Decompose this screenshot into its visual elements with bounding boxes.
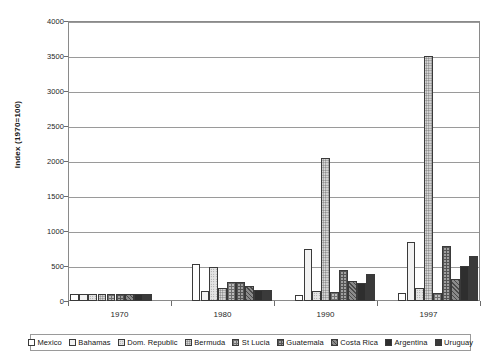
bar-group: [68, 21, 171, 301]
x-axis-tick: [171, 301, 172, 306]
x-axis-tick: [274, 301, 275, 306]
legend-swatch-icon: [69, 339, 76, 346]
bar: [192, 264, 201, 301]
legend-item[interactable]: Mexico: [28, 338, 62, 347]
legend-swatch-icon: [277, 339, 284, 346]
bar: [245, 286, 254, 301]
legend-swatch-icon: [28, 339, 35, 346]
y-axis-tick-label: 4000: [4, 17, 64, 26]
bar: [357, 283, 366, 301]
bar: [460, 266, 469, 301]
bar: [330, 292, 339, 301]
legend-swatch-icon: [435, 339, 442, 346]
x-axis-tick-label: 1997: [399, 310, 459, 319]
legend-item[interactable]: Uruguay: [435, 338, 474, 347]
bar: [398, 293, 407, 301]
legend-label: Uruguay: [444, 338, 473, 347]
y-axis-tick-label: 3500: [4, 52, 64, 61]
bar: [227, 282, 236, 301]
legend-swatch-icon: [185, 339, 192, 346]
legend-item[interactable]: Guatemala: [277, 338, 324, 347]
bar: [134, 294, 143, 301]
legend-item[interactable]: Bahamas: [69, 338, 111, 347]
bar: [70, 294, 79, 301]
legend-label: St Lucia: [242, 338, 270, 347]
bar-group: [274, 21, 377, 301]
bar: [348, 281, 357, 301]
chart-legend: MexicoBahamasDom. RepublicBermudaSt Luci…: [30, 334, 471, 351]
legend-label: Dom. Republic: [127, 338, 178, 347]
bar: [321, 158, 330, 302]
bar: [312, 291, 321, 302]
y-axis-tick-label: 1500: [4, 192, 64, 201]
legend-label: Guatemala: [286, 338, 324, 347]
bar: [295, 295, 304, 301]
legend-swatch-icon: [232, 339, 239, 346]
legend-item[interactable]: Bermuda: [185, 338, 226, 347]
x-axis-tick: [68, 301, 69, 306]
legend-item[interactable]: Costa Rica: [331, 338, 378, 347]
legend-item[interactable]: Dom. Republic: [118, 338, 178, 347]
chart-container: Index (1970=100) 05001000150020002500300…: [0, 0, 500, 363]
legend-label: Bermuda: [194, 338, 225, 347]
legend-swatch-icon: [331, 339, 338, 346]
bar: [415, 288, 424, 301]
bar: [407, 242, 416, 301]
legend-label: Bahamas: [78, 338, 110, 347]
y-axis-tick-label: 2000: [4, 157, 64, 166]
x-axis-tick-label: 1970: [90, 310, 150, 319]
bar: [263, 290, 272, 301]
bar: [442, 246, 451, 301]
x-axis-tick: [480, 301, 481, 306]
legend-swatch-icon: [118, 339, 125, 346]
y-axis-tick-label: 1000: [4, 227, 64, 236]
bar: [218, 288, 227, 301]
y-axis-tick-label: 2500: [4, 122, 64, 131]
bar: [209, 267, 218, 301]
bar: [339, 270, 348, 302]
bar-groups: [68, 21, 480, 301]
bar: [98, 294, 107, 301]
legend-swatch-icon: [385, 339, 392, 346]
y-axis-tick-label: 0: [4, 297, 64, 306]
bar: [116, 294, 125, 301]
y-axis-tick-labels: 05001000150020002500300035004000: [0, 0, 64, 363]
legend-item[interactable]: Argentina: [385, 338, 428, 347]
x-axis-tick-label: 1990: [296, 310, 356, 319]
bar-group: [377, 21, 480, 301]
bar: [433, 293, 442, 301]
bar: [451, 279, 460, 301]
bar: [469, 256, 478, 301]
y-axis-tick-label: 3000: [4, 87, 64, 96]
bar: [304, 249, 313, 302]
bar: [79, 294, 88, 301]
bar: [254, 290, 263, 301]
bar: [143, 294, 152, 301]
bar: [107, 294, 116, 301]
bar: [366, 274, 375, 301]
bar: [88, 294, 97, 301]
bar: [201, 291, 210, 302]
legend-label: Mexico: [37, 338, 61, 347]
x-axis-tick: [377, 301, 378, 306]
x-axis-tick-label: 1980: [193, 310, 253, 319]
legend-label: Argentina: [395, 338, 428, 347]
y-axis-tick-label: 500: [4, 262, 64, 271]
bar: [424, 56, 433, 301]
bar: [236, 282, 245, 301]
legend-label: Costa Rica: [340, 338, 378, 347]
legend-item[interactable]: St Lucia: [232, 338, 269, 347]
bar: [125, 294, 134, 301]
bar-group: [171, 21, 274, 301]
